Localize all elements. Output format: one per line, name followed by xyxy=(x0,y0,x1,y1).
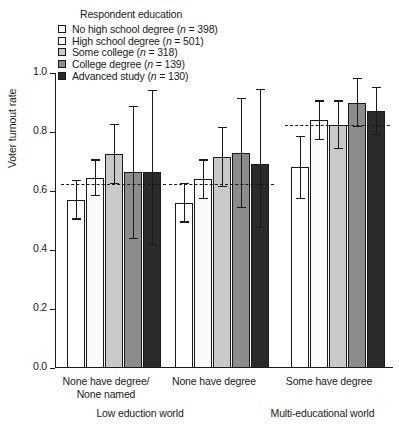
error-bar-cap-lower xyxy=(148,244,157,245)
error-bar-stem xyxy=(114,125,115,184)
error-bar-cap-lower xyxy=(180,221,189,222)
error-bar-cap-lower xyxy=(199,198,208,199)
bar[interactable] xyxy=(329,125,347,368)
error-bar-cap-upper xyxy=(218,127,227,128)
error-bar-cap-lower xyxy=(237,207,246,208)
legend-title: Respondent education xyxy=(80,8,298,20)
y-tick-label-1.0: 1.0 xyxy=(33,65,47,77)
bar-group-2 xyxy=(175,73,270,368)
y-tick-0.6: 0.6 xyxy=(50,191,55,192)
error-bar-cap-lower xyxy=(129,238,138,239)
y-axis-line xyxy=(55,73,56,368)
group-caption-2: None have degree xyxy=(152,375,276,388)
error-bar-cap-lower xyxy=(296,198,305,199)
bar-group-1 xyxy=(67,73,162,368)
error-bar-cap-upper xyxy=(199,159,208,160)
legend-swatch-high-school-degree xyxy=(58,37,66,45)
bar[interactable] xyxy=(367,111,385,368)
group-caption-3: Some have degree xyxy=(267,375,391,388)
error-bar-cap-upper xyxy=(91,159,100,160)
bar[interactable] xyxy=(194,179,212,368)
chart-legend: Respondent education No high school degr… xyxy=(58,8,298,81)
error-bar-stem xyxy=(319,101,320,139)
panel-caption-low-education-world: Low eduction world xyxy=(60,407,220,419)
error-bar-stem xyxy=(222,128,223,187)
legend-swatch-some-college xyxy=(58,48,66,56)
bar[interactable] xyxy=(67,200,85,368)
legend-label-some-college: Some college (n = 318) xyxy=(72,46,178,58)
error-bar-cap-lower xyxy=(72,218,81,219)
error-bar-cap-upper xyxy=(237,98,246,99)
y-tick-0.4: 0.4 xyxy=(50,250,55,251)
error-bar-stem xyxy=(152,91,153,244)
y-tick-0.2: 0.2 xyxy=(50,309,55,310)
error-bar-cap-upper xyxy=(315,100,324,101)
error-bar-cap-upper xyxy=(72,180,81,181)
legend-label-no-high-school-degree: No high school degree (n = 398) xyxy=(72,23,218,35)
y-tick-1.0: 1.0 xyxy=(50,73,55,74)
bar[interactable] xyxy=(213,157,231,368)
error-bar-stem xyxy=(76,181,77,219)
y-tick-label-0.6: 0.6 xyxy=(33,183,47,195)
y-tick-label-0.0: 0.0 xyxy=(33,360,47,372)
error-bar-stem xyxy=(300,136,301,198)
group-caption-1-line1: None have degree/ xyxy=(44,375,168,388)
legend-swatch-college-degree xyxy=(58,60,66,68)
error-bar-cap-upper xyxy=(353,78,362,79)
bar[interactable] xyxy=(175,203,193,368)
plot-area: 0.00.20.40.60.81.0 xyxy=(55,73,393,368)
reference-line-3 xyxy=(285,125,390,126)
error-bar-cap-lower xyxy=(218,186,227,187)
error-bar-cap-upper xyxy=(110,124,119,125)
reference-line-1 xyxy=(61,184,166,185)
error-bar-stem xyxy=(260,89,261,228)
error-bar-stem xyxy=(95,160,96,195)
y-tick-label-0.2: 0.2 xyxy=(33,301,47,313)
error-bar-cap-lower xyxy=(315,139,324,140)
group-caption-1: None have degree/ None named xyxy=(44,375,168,400)
group-caption-3-line1: Some have degree xyxy=(267,375,391,388)
error-bar-cap-upper xyxy=(256,89,265,90)
error-bar-stem xyxy=(184,184,185,222)
error-bar-cap-lower xyxy=(334,148,343,149)
y-tick-label-0.4: 0.4 xyxy=(33,242,47,254)
error-bar-cap-lower xyxy=(372,134,381,135)
error-bar-cap-upper xyxy=(129,106,138,107)
error-bar-stem xyxy=(133,107,134,238)
legend-item-high-school-degree: High school degree (n = 501) xyxy=(58,35,298,47)
error-bar-stem xyxy=(376,88,377,135)
error-bar-cap-upper xyxy=(296,136,305,137)
error-bar-stem xyxy=(357,79,358,126)
error-bar-stem xyxy=(203,160,204,198)
legend-item-college-degree: College degree (n = 139) xyxy=(58,58,298,70)
error-bar-cap-lower xyxy=(91,195,100,196)
y-tick-0.8: 0.8 xyxy=(50,132,55,133)
bar-group-3 xyxy=(291,73,386,368)
error-bar-cap-upper xyxy=(148,90,157,91)
panel-caption-multi-educational-world: Multi-educational world xyxy=(250,407,395,419)
y-tick-0.0: 0.0 xyxy=(50,368,55,369)
legend-item-some-college: Some college (n = 318) xyxy=(58,47,298,59)
legend-label-high-school-degree: High school degree (n = 501) xyxy=(72,35,204,47)
error-bar-cap-upper xyxy=(334,100,343,101)
y-tick-label-0.8: 0.8 xyxy=(33,124,47,136)
bar[interactable] xyxy=(310,120,328,368)
legend-label-college-degree: College degree (n = 139) xyxy=(72,58,185,70)
error-bar-cap-upper xyxy=(372,87,381,88)
error-bar-cap-lower xyxy=(353,126,362,127)
legend-swatch-no-high-school-degree xyxy=(58,25,66,33)
bar[interactable] xyxy=(105,154,123,368)
chart-figure: Respondent education No high school degr… xyxy=(0,0,399,436)
error-bar-cap-lower xyxy=(256,227,265,228)
reference-line-2 xyxy=(169,184,274,185)
group-caption-2-line1: None have degree xyxy=(152,375,276,388)
group-caption-1-line2: None named xyxy=(44,388,168,401)
bar[interactable] xyxy=(348,103,366,369)
y-axis-title: Voter turnout rate xyxy=(6,89,18,168)
legend-item-no-high-school-degree: No high school degree (n = 398) xyxy=(58,24,298,36)
bar[interactable] xyxy=(86,178,104,368)
error-bar-stem xyxy=(241,98,242,207)
